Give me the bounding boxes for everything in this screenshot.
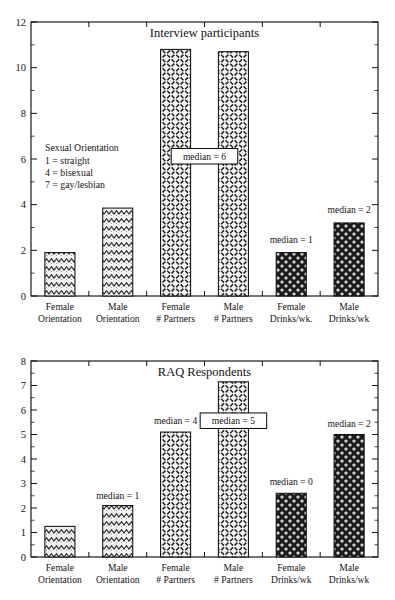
bar[interactable] — [218, 52, 248, 296]
category-label: Female — [161, 562, 189, 573]
chart-panel-interview-participants: 024681012FemaleOrientationMaleOrientatio… — [0, 0, 395, 335]
y-tick-label: 0 — [21, 291, 26, 302]
category-label: Orientation — [38, 313, 82, 324]
category-label: Drinks/wk. — [270, 313, 313, 324]
median-label: median = 2 — [327, 204, 370, 215]
category-label: Drinks/wk — [329, 574, 370, 585]
category-label: Female — [161, 301, 189, 312]
category-label: # Partners — [214, 313, 253, 324]
bar[interactable] — [161, 49, 191, 296]
bar[interactable] — [45, 253, 75, 296]
category-label: Drinks/wk — [271, 574, 312, 585]
median-label: median = 5 — [212, 415, 255, 426]
y-tick-label: 2 — [21, 503, 26, 514]
category-label: Male — [108, 562, 128, 573]
chart-panel-raq-respondents: 012345678FemaleOrientationMaleOrientatio… — [0, 335, 395, 600]
y-tick-label: 0 — [21, 552, 26, 563]
category-label: Male — [108, 301, 128, 312]
bar[interactable] — [103, 506, 133, 557]
legend-line: 1 = straight — [45, 155, 90, 166]
y-tick-label: 6 — [21, 405, 26, 416]
bar[interactable] — [218, 382, 248, 557]
median-label: median = 1 — [96, 490, 139, 501]
category-label: # Partners — [156, 313, 195, 324]
category-label: Orientation — [96, 574, 140, 585]
legend-heading: Sexual Orientation — [45, 142, 119, 153]
category-label: Female — [277, 562, 305, 573]
y-tick-label: 8 — [21, 356, 26, 367]
category-label: # Partners — [156, 574, 195, 585]
x-axis-category-labels: FemaleOrientationMaleOrientationFemale# … — [38, 562, 369, 585]
y-tick-label: 4 — [21, 199, 27, 210]
bar[interactable] — [161, 432, 191, 557]
category-label: Drinks/wk — [329, 313, 370, 324]
category-label: Male — [339, 562, 359, 573]
bar[interactable] — [276, 253, 306, 296]
figure-root: 024681012FemaleOrientationMaleOrientatio… — [0, 0, 395, 600]
y-tick-label: 3 — [21, 478, 26, 489]
x-axis-category-labels: FemaleOrientationMaleOrientationFemale# … — [38, 301, 369, 324]
bar[interactable] — [45, 526, 75, 557]
y-tick-label: 4 — [21, 454, 27, 465]
chart-title: Interview participants — [150, 26, 259, 40]
category-label: Orientation — [38, 574, 82, 585]
category-label: Male — [224, 301, 244, 312]
bar-chart-interview-participants: 024681012FemaleOrientationMaleOrientatio… — [0, 0, 395, 335]
bar[interactable] — [276, 493, 306, 557]
median-label: median = 1 — [270, 234, 313, 245]
bar-chart-raq-respondents: 012345678FemaleOrientationMaleOrientatio… — [0, 335, 395, 600]
y-tick-label: 12 — [16, 17, 27, 28]
bar[interactable] — [103, 208, 133, 296]
y-tick-label: 6 — [21, 154, 26, 165]
category-label: # Partners — [214, 574, 253, 585]
y-tick-label: 5 — [21, 429, 26, 440]
legend-line: 7 = gay/lesbian — [45, 179, 105, 190]
category-label: Female — [277, 301, 305, 312]
y-tick-label: 1 — [21, 527, 26, 538]
median-label: median = 6 — [183, 151, 226, 162]
category-label: Orientation — [96, 313, 140, 324]
plot-frame — [31, 361, 378, 557]
chart-title: RAQ Respondents — [158, 365, 252, 379]
category-label: Female — [46, 301, 74, 312]
category-label: Male — [339, 301, 359, 312]
legend-line: 4 = bisexual — [45, 167, 93, 178]
y-tick-label: 10 — [16, 62, 27, 73]
y-tick-label: 7 — [21, 380, 26, 391]
median-label: median = 2 — [327, 418, 370, 429]
bar[interactable] — [334, 435, 364, 558]
category-label: Male — [224, 562, 244, 573]
median-label: median = 4 — [154, 415, 197, 426]
y-tick-label: 8 — [21, 108, 26, 119]
bar[interactable] — [334, 223, 364, 296]
y-tick-label: 2 — [21, 245, 26, 256]
median-label: median = 0 — [270, 476, 313, 487]
category-label: Female — [46, 562, 74, 573]
